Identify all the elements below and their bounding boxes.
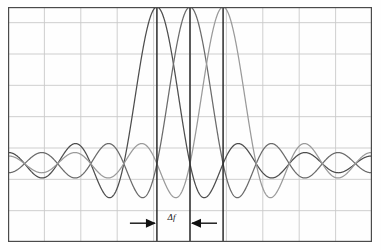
arrow-right-icon	[146, 219, 156, 228]
peak-markers	[157, 7, 223, 242]
spectra-svg	[8, 7, 372, 242]
delta-f-label: Δf	[167, 212, 175, 222]
figure-container: Δf	[0, 0, 381, 250]
plot-area: Δf	[8, 7, 372, 242]
arrow-left-icon	[191, 219, 201, 228]
